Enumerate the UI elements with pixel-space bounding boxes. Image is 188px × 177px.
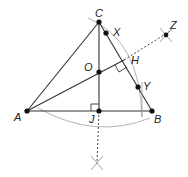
altitude-extension-dotted — [97, 111, 99, 163]
label-Y: Y — [143, 80, 151, 92]
label-H: H — [131, 54, 139, 66]
label-B: B — [154, 113, 161, 125]
point-Z — [164, 33, 169, 38]
label-O: O — [84, 61, 93, 73]
point-J — [96, 108, 101, 113]
point-Y — [135, 84, 140, 89]
label-J: J — [88, 113, 95, 125]
label-C: C — [95, 7, 103, 19]
label-Z: Z — [169, 19, 178, 31]
geometry-diagram: C X Z O H Y A J B — [0, 0, 188, 177]
cross-mark-bottom — [91, 156, 103, 170]
label-X: X — [112, 26, 121, 38]
point-O — [96, 69, 101, 74]
point-A — [24, 108, 29, 113]
point-C — [96, 19, 101, 24]
line-AH — [27, 60, 124, 111]
point-X — [103, 30, 108, 35]
label-A: A — [13, 111, 21, 123]
